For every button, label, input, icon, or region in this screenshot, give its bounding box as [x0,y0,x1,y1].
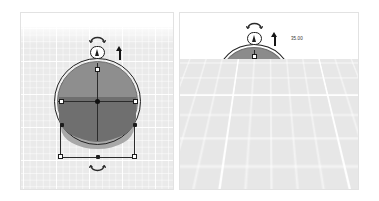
inner-dot-a[interactable] [248,144,252,148]
resize-handle-left[interactable] [218,89,223,94]
left-viewport[interactable] [21,13,173,189]
resize-handle-br[interactable] [284,129,289,134]
dimension-label-height-top[interactable]: 35.00 [291,37,303,42]
corner-dot-bottom[interactable] [252,130,256,134]
top-view-panel[interactable] [20,12,174,190]
rotate-arc-bottom-icon[interactable] [89,165,106,173]
resize-handle-top[interactable] [252,54,257,59]
right-viewport[interactable]: 35.00 20.00 [180,13,358,189]
rotate-arc-top-icon[interactable] [89,35,106,43]
resize-handle-right[interactable] [287,89,292,94]
arrow-shaft [119,50,121,60]
bbox-edge-left [60,125,61,157]
inner-dot-b[interactable] [256,144,260,148]
resize-handle-bl[interactable] [58,154,63,159]
rotate-arc-top-icon[interactable] [246,21,263,29]
cone-icon [95,49,99,56]
corner-dot-left[interactable] [222,104,226,108]
screenshot-stage: 35.00 20.00 [0,0,379,201]
perspective-view-panel[interactable]: 35.00 20.00 [179,12,359,190]
dimension-input-height-side[interactable]: 20.00 [317,96,336,106]
extrude-handle[interactable] [90,46,105,59]
bbox-edge-right [286,105,287,131]
bbox-edge-right [134,125,135,157]
object-center-marker[interactable] [95,99,100,104]
object-center-marker[interactable] [252,89,257,94]
resize-handle-bl[interactable] [220,129,225,134]
corner-dot-bottom[interactable] [96,155,100,159]
up-arrow-icon[interactable] [116,46,123,60]
up-arrow-icon[interactable] [271,32,278,46]
resize-handle-top[interactable] [95,67,100,72]
extrude-handle[interactable] [247,32,262,45]
arrow-shaft [274,36,276,46]
corner-dot-right[interactable] [133,123,137,127]
corner-dot-right[interactable] [285,104,289,108]
dimension-extension-line [311,88,312,118]
resize-handle-right[interactable] [133,99,138,104]
resize-handle-left[interactable] [59,99,64,104]
bbox-edge-left [222,105,223,131]
cylinder-bottom-ellipse [224,129,284,163]
corner-dot-left[interactable] [60,123,64,127]
resize-handle-br[interactable] [132,154,137,159]
cone-icon [252,35,256,42]
